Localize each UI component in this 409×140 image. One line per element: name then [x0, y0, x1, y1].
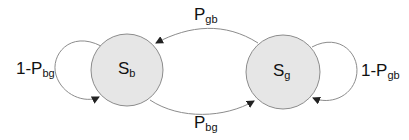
self-loop-label-sg: 1-Pgb [361, 62, 400, 81]
state-label-sg: Sg [273, 62, 290, 81]
state-label-sb: Sb [118, 60, 135, 79]
transition-gb [156, 28, 258, 43]
transition-label-gb: Pgb [194, 6, 218, 25]
transition-label-bg: Pbg [194, 114, 218, 133]
self-loop-label-sb: 1-Pbg [16, 60, 55, 79]
